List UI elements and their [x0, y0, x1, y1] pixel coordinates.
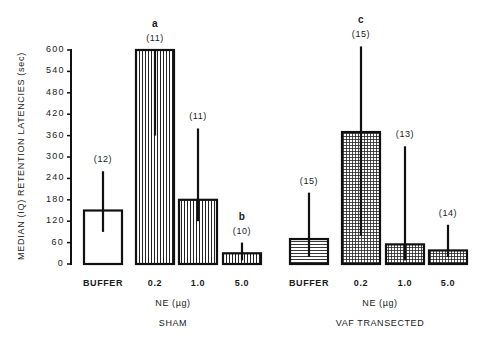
- y-tick-label: 240: [46, 172, 64, 182]
- sham-x-axis-label: NE (µg): [155, 298, 190, 308]
- y-tick-label: 540: [46, 65, 64, 75]
- significance-marker: c: [358, 14, 364, 25]
- y-tick-label: 300: [46, 151, 64, 161]
- n-label: (11): [189, 111, 207, 121]
- n-label: (12): [94, 154, 112, 164]
- n-label: (15): [300, 176, 318, 186]
- sham-group-label: SHAM: [159, 318, 187, 328]
- x-tick-label: 1.0: [398, 278, 412, 288]
- n-label: (10): [233, 226, 251, 236]
- significance-marker: a: [152, 18, 158, 29]
- y-tick-label: 120: [46, 215, 64, 225]
- y-tick-label: 60: [46, 237, 64, 247]
- y-tick-label: 480: [46, 87, 64, 97]
- y-tick-label: 600: [46, 44, 64, 54]
- y-axis: [67, 49, 71, 265]
- y-tick-label: 180: [46, 194, 64, 204]
- n-label: (11): [146, 33, 164, 43]
- n-label: (15): [352, 29, 370, 39]
- x-tick-label: BUFFER: [83, 278, 123, 288]
- bar-chart: [0, 0, 495, 350]
- significance-marker: b: [239, 211, 246, 222]
- y-axis-label: MEDIAN (IQ) RETENTION LATENCIES (sec): [16, 52, 26, 260]
- x-tick-label: 0.2: [148, 278, 162, 288]
- x-tick-label: 5.0: [235, 278, 249, 288]
- n-label: (13): [396, 129, 414, 139]
- x-tick-label: 5.0: [441, 278, 455, 288]
- x-tick-label: BUFFER: [289, 278, 329, 288]
- y-tick-label: 420: [46, 108, 64, 118]
- y-tick-label: 0: [46, 258, 64, 268]
- vaf-group-label: VAF TRANSECTED: [336, 318, 425, 328]
- bars: [84, 46, 467, 264]
- x-tick-label: 1.0: [191, 278, 205, 288]
- x-tick-label: 0.2: [354, 278, 368, 288]
- y-tick-label: 360: [46, 130, 64, 140]
- n-label: (14): [439, 208, 457, 218]
- vaf-x-axis-label: NE (µg): [362, 298, 397, 308]
